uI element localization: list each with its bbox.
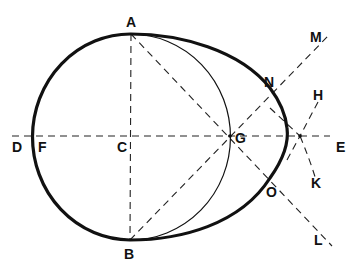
label-h: H	[313, 87, 323, 103]
label-l: L	[314, 232, 323, 248]
label-o: O	[266, 184, 277, 200]
line-oe	[287, 136, 300, 160]
point-g-dot	[228, 134, 232, 138]
label-c: C	[117, 139, 127, 155]
label-a: A	[126, 14, 136, 30]
inner-semicircle	[130, 34, 230, 240]
arc-hk	[300, 102, 318, 136]
label-k: K	[311, 175, 321, 191]
arc-hk-lower	[300, 136, 316, 180]
label-f: F	[38, 139, 47, 155]
vertical-axis-ab	[130, 34, 131, 240]
label-g: G	[235, 130, 246, 146]
egg-construction-diagram: A B C D E F G H K L M N O	[0, 0, 359, 268]
label-n: N	[264, 74, 274, 90]
point-e-intersection-dot	[298, 134, 302, 138]
label-d: D	[12, 139, 22, 155]
label-m: M	[310, 29, 322, 45]
label-b: B	[124, 246, 134, 262]
label-e: E	[336, 139, 345, 155]
